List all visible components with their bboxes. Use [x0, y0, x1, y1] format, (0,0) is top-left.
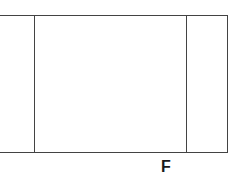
- diagram-canvas: F: [0, 0, 244, 188]
- right-vertical-divider-line: [186, 15, 187, 153]
- right-edge-vertical-line: [227, 15, 228, 153]
- figure-label-f: F: [158, 159, 174, 175]
- left-vertical-divider-line: [34, 15, 35, 153]
